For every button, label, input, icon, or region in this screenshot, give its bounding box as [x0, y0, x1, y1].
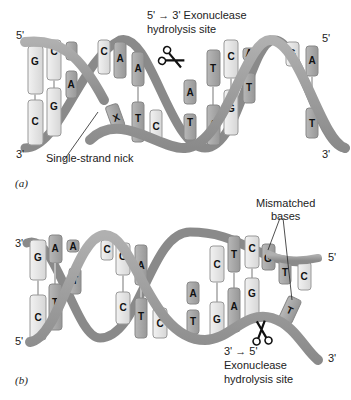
backbone-strand-top-end-b — [270, 255, 318, 261]
svg-text:T: T — [246, 82, 252, 93]
svg-text:A: A — [67, 79, 74, 90]
svg-text:A: A — [69, 241, 76, 252]
panel-a-3prime-left: 3' — [16, 148, 24, 160]
panel-b: GC AT AT C GC AT C AT — [15, 197, 336, 387]
panel-b-site-label-line1: 3' → 5' — [224, 345, 258, 357]
svg-text:T: T — [187, 117, 193, 128]
svg-text:T: T — [282, 267, 288, 278]
svg-text:T: T — [210, 63, 216, 74]
scissors-icon — [251, 320, 272, 345]
panel-b-5prime-left: 5' — [15, 335, 23, 347]
panel-b-5prime-right: 5' — [328, 251, 336, 263]
svg-text:A: A — [308, 55, 315, 66]
svg-text:A: A — [186, 87, 193, 98]
panel-b-3prime-right: 3' — [328, 352, 336, 364]
svg-text:G: G — [50, 101, 58, 112]
panel-b-site-label-line2: Exonuclease — [224, 359, 287, 371]
svg-text:G: G — [34, 252, 42, 263]
svg-text:G: G — [213, 314, 221, 325]
svg-text:C: C — [213, 259, 220, 270]
panel-a-3prime-right: 3' — [322, 148, 330, 160]
mismatch-label-line1: Mismatched — [256, 197, 315, 209]
nick-label: Single-strand nick — [46, 152, 134, 164]
svg-text:C: C — [227, 51, 234, 62]
svg-text:C: C — [248, 243, 255, 254]
panel-b-3prime-left: 3' — [15, 237, 23, 249]
svg-text:C: C — [152, 121, 159, 132]
svg-text:C: C — [119, 302, 126, 313]
svg-text:A: A — [134, 63, 141, 74]
svg-text:G: G — [248, 288, 256, 299]
panel-a-site-label-line1: 5' → 3' Exonuclease — [147, 9, 247, 21]
dna-exonuclease-diagram: GC CG A C A X AT — [0, 0, 351, 400]
svg-text:C: C — [31, 116, 38, 127]
svg-text:T: T — [231, 249, 237, 260]
mismatch-label-line2: bases — [271, 210, 301, 222]
panel-b-label: (b) — [15, 374, 28, 387]
svg-text:T: T — [309, 118, 315, 129]
panel-a-5prime-right: 5' — [322, 32, 330, 44]
scissors-icon — [157, 45, 186, 72]
panel-b-site-label-line3: hydrolysis site — [224, 373, 293, 385]
svg-text:A: A — [116, 53, 123, 64]
svg-text:T: T — [190, 316, 196, 327]
svg-text:C: C — [100, 46, 107, 57]
svg-text:T: T — [138, 311, 144, 322]
svg-text:C: C — [34, 312, 41, 323]
svg-text:A: A — [51, 243, 58, 254]
svg-text:C: C — [300, 271, 307, 282]
panel-a-5prime-left: 5' — [16, 29, 24, 41]
panel-a: GC CG A C A X AT — [15, 9, 345, 190]
svg-text:T: T — [135, 113, 141, 124]
panel-a-site-label-line2: hydrolysis site — [147, 23, 216, 35]
svg-text:A: A — [189, 288, 196, 299]
svg-text:C: C — [103, 244, 110, 255]
svg-text:A: A — [230, 301, 237, 312]
panel-a-label: (a) — [15, 177, 28, 190]
svg-text:G: G — [31, 56, 39, 67]
